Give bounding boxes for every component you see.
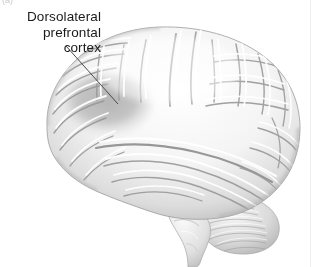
brain-illustration: [0, 0, 318, 267]
brain-figure: (a) Dorsolateral prefrontal cortex: [0, 0, 318, 267]
cerebral-cortex: [47, 27, 300, 219]
